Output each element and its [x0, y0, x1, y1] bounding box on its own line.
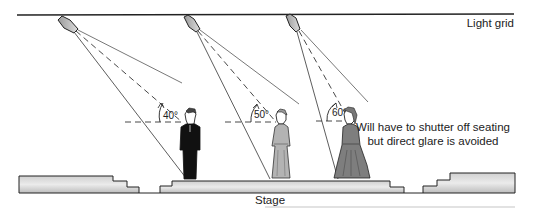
angle-label-40: 40°	[163, 110, 178, 121]
light-grid-label: Light grid	[467, 17, 514, 29]
seating-left	[19, 176, 139, 193]
spotlight-icon	[58, 16, 78, 33]
shutter-note: Will have to shutter off seating but dir…	[348, 120, 518, 148]
spotlight-1	[58, 16, 186, 178]
light-grid-bar	[17, 14, 514, 15]
angle-marker-2: 50°	[225, 104, 276, 122]
figure-man-in-suit	[180, 108, 200, 179]
stage-lighting-diagram: 40° 50° 60°	[0, 0, 540, 213]
stage-label: Stage	[255, 194, 285, 206]
angle-marker-1: 40°	[125, 103, 182, 122]
spotlight-icon	[286, 14, 300, 32]
angle-label-50: 50°	[254, 109, 269, 120]
stage-platform	[160, 181, 404, 193]
figure-woman-in-dress	[272, 109, 290, 178]
spotlight-icon	[184, 15, 200, 32]
seating-right	[423, 173, 515, 193]
